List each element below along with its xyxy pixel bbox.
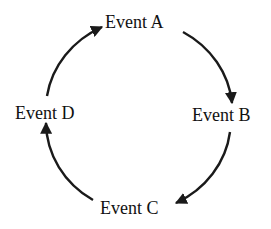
node-event-b: Event B bbox=[192, 106, 251, 124]
arrow-a-to-b bbox=[183, 32, 232, 103]
node-event-c: Event C bbox=[100, 199, 159, 217]
node-event-d: Event D bbox=[15, 104, 74, 122]
arrow-b-to-c bbox=[176, 132, 230, 203]
arrow-d-to-a bbox=[47, 27, 102, 96]
cycle-diagram: Event A Event B Event C Event D bbox=[0, 0, 271, 229]
node-event-a: Event A bbox=[105, 13, 164, 31]
arrow-c-to-d bbox=[46, 123, 93, 200]
